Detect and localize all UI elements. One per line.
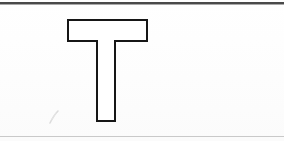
pencil-stroke-path-secondary [52, 113, 57, 120]
scanned-page [0, 0, 284, 141]
pencil-stroke-mark [0, 0, 284, 141]
